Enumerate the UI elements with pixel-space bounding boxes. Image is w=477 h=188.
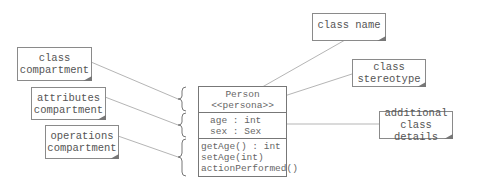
note-text: stereotype — [357, 73, 420, 85]
class-stereotype: <<persona>> — [199, 100, 286, 111]
folded-corner-icon — [417, 82, 426, 87]
note-attributes-compartment: attributes compartment — [31, 87, 106, 120]
note-additional-class-details: additional class details — [379, 111, 453, 139]
brace-class-compartment — [178, 87, 186, 111]
note-text: compartment — [47, 142, 116, 154]
brace-attributes-compartment — [178, 113, 186, 137]
folded-corner-icon — [83, 76, 92, 81]
operation: actionPerformed() — [201, 163, 286, 174]
note-class-compartment: class compartment — [17, 47, 92, 81]
name-compartment: Person <<persona>> — [199, 87, 286, 113]
line-operations-compartment — [118, 136, 178, 157]
brace-operations-compartment — [178, 139, 186, 176]
operation: setAge(int) — [201, 152, 286, 163]
folded-corner-icon — [97, 115, 106, 120]
note-text: operations — [50, 130, 113, 142]
folded-corner-icon — [110, 154, 119, 159]
note-text: additional — [384, 107, 447, 119]
operations-compartment: getAge() : int setAge(int) actionPerform… — [199, 139, 286, 176]
attributes-compartment: age : int sex : Sex — [199, 113, 286, 139]
note-text: class details — [380, 119, 452, 143]
note-text: compartment — [20, 64, 89, 76]
note-text: class — [39, 52, 71, 64]
note-class-stereotype: class stereotype — [352, 59, 426, 87]
note-class-name: class name — [312, 13, 386, 41]
folded-corner-icon — [377, 36, 386, 41]
folded-corner-icon — [444, 134, 453, 139]
class-name: Person — [199, 89, 286, 100]
note-text: class — [373, 61, 405, 73]
note-text: compartment — [34, 104, 103, 116]
uml-class-box: Person <<persona>> age : int sex : Sex g… — [198, 86, 287, 177]
line-class-name — [257, 40, 345, 90]
note-text: attributes — [37, 92, 100, 104]
note-operations-compartment: operations compartment — [45, 125, 119, 159]
attribute: age : int — [210, 115, 286, 126]
operation: getAge() : int — [201, 141, 286, 152]
line-attributes-compartment — [105, 97, 178, 125]
attribute: sex : Sex — [210, 126, 286, 137]
note-text: class name — [317, 19, 380, 31]
